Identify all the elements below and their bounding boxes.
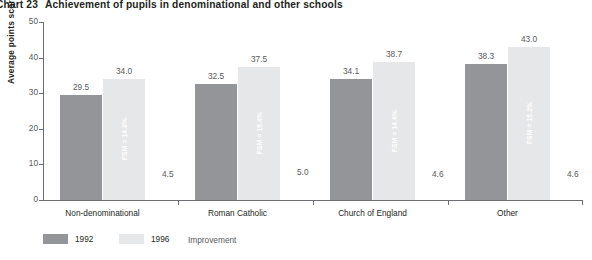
y-tick-label: 40 xyxy=(29,52,38,62)
y-axis-title: Average points score xyxy=(6,0,16,84)
legend-label-1996: 1996 xyxy=(151,234,169,244)
x-tick-divider xyxy=(448,200,449,205)
y-tick-label: 50 xyxy=(29,16,38,26)
bar-value-1996: 43.0 xyxy=(521,34,537,44)
legend-improvement-note: Improvement xyxy=(188,235,236,245)
chart-title-text: Achievement of pupils in denominational … xyxy=(45,0,343,10)
category-label: Other xyxy=(497,208,518,218)
category-label: Non-denominational xyxy=(65,208,139,218)
chart-title: Chart 23Achievement of pupils in denomin… xyxy=(0,0,343,10)
legend-label-1992: 1992 xyxy=(75,234,93,244)
bar-group: 38.343.0FSM = 15.2%4.6Other xyxy=(43,22,583,200)
y-tick-label: 10 xyxy=(29,158,38,168)
category-label: Church of England xyxy=(338,208,407,218)
category-label: Roman Catholic xyxy=(208,208,267,218)
x-tick-divider xyxy=(313,200,314,205)
chart-container: Chart 23Achievement of pupils in denomin… xyxy=(0,0,592,260)
fsm-label: FSM = 15.2% xyxy=(526,102,533,144)
improvement-value: 4.6 xyxy=(567,169,579,179)
y-tick-label: 20 xyxy=(29,123,38,133)
bar-value-1992: 38.3 xyxy=(478,51,494,61)
legend-swatch-1996 xyxy=(119,234,144,244)
legend-swatch-1992 xyxy=(43,234,68,244)
x-tick-divider xyxy=(178,200,179,205)
y-tick-mark xyxy=(39,200,44,201)
bar-1996[interactable]: 43.0FSM = 15.2% xyxy=(508,47,550,200)
x-tick-divider xyxy=(582,200,583,205)
bar-1992[interactable]: 38.3 xyxy=(465,64,507,200)
legend-item-1996: 1996 xyxy=(119,234,169,244)
legend-item-1992: 1992 xyxy=(43,234,93,244)
y-tick-label: 0 xyxy=(33,194,38,204)
y-tick-label: 30 xyxy=(29,87,38,97)
plot-area: Average points score 01020304050 29.534.… xyxy=(43,22,583,200)
